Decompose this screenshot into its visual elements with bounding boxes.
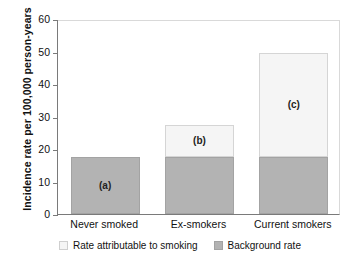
bar-annotation-label: (b): [165, 135, 234, 146]
legend-item[interactable]: Rate attributable to smoking: [59, 240, 198, 251]
y-tick-label: 40: [26, 78, 50, 90]
y-tick-label: 20: [26, 143, 50, 155]
legend-label: Rate attributable to smoking: [73, 240, 198, 251]
chart-figure: Incidence rate per 100,000 person-years …: [0, 0, 360, 267]
chart-legend: Rate attributable to smokingBackground r…: [0, 240, 360, 251]
bar-segment-background-rate[interactable]: [165, 157, 234, 214]
bar-segment-background-rate[interactable]: [259, 157, 328, 214]
y-tick-mark: [53, 183, 58, 184]
y-tick-label: 0: [26, 208, 50, 220]
plot-area: 0102030405060 (a)(b)(c): [57, 20, 340, 215]
y-tick-mark: [53, 85, 58, 86]
legend-swatch-background: [214, 241, 223, 250]
y-tick-mark: [53, 118, 58, 119]
x-tick-label: Never smoked: [57, 218, 151, 230]
stacked-bar[interactable]: (a): [71, 157, 140, 214]
legend-swatch-attributable: [59, 241, 68, 250]
x-tick-label: Current smokers: [246, 218, 340, 230]
y-tick-label: 50: [26, 46, 50, 58]
y-tick-mark: [53, 53, 58, 54]
bar-annotation-label: (a): [71, 180, 140, 191]
legend-item[interactable]: Background rate: [214, 240, 301, 251]
y-tick-label: 10: [26, 176, 50, 188]
y-tick-mark: [53, 150, 58, 151]
stacked-bar[interactable]: (b): [165, 125, 234, 214]
stacked-bar[interactable]: (c): [259, 53, 328, 214]
bar-annotation-label: (c): [259, 99, 328, 110]
y-tick-mark: [53, 20, 58, 21]
y-tick-label: 30: [26, 111, 50, 123]
y-tick-label: 60: [26, 13, 50, 25]
y-tick-mark: [53, 215, 58, 216]
x-tick-label: Ex-smokers: [151, 218, 245, 230]
legend-label: Background rate: [228, 240, 301, 251]
